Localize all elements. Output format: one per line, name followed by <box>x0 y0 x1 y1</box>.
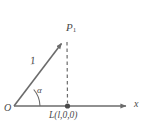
projection-dashed-line <box>67 42 68 103</box>
label-p-letter: P <box>66 21 73 33</box>
point-marker-L <box>65 103 70 108</box>
label-axis-x: x <box>134 99 138 109</box>
label-foot-suffix: ,0,0) <box>60 110 77 120</box>
label-foot-point: L(l,0,0) <box>49 111 78 121</box>
label-vector-length: 1 <box>30 55 36 66</box>
label-angle-alpha: α <box>37 86 42 95</box>
geometry-figure: P1 1 α O L(l,0,0) x <box>0 0 145 132</box>
label-origin: O <box>4 103 11 113</box>
label-p-subscript: 1 <box>73 26 77 34</box>
label-point-p1: P1 <box>66 22 76 34</box>
